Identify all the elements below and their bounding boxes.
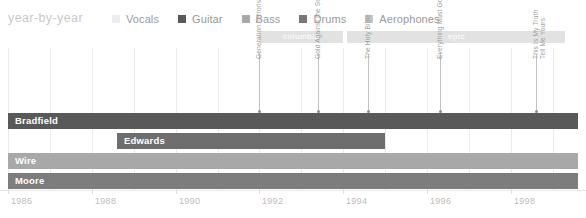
legend-label: Aerophones	[379, 13, 439, 25]
row-label-wire: Wire	[8, 153, 36, 169]
album-title-label: Gold Against the Soul	[314, 0, 321, 59]
axis-label: 1992	[262, 196, 283, 206]
timeline-bar-wire[interactable]	[8, 153, 578, 169]
axis-tick	[259, 190, 260, 194]
row-label-bradfield: Bradfield	[8, 113, 58, 129]
row-label-edwards: Edwards	[117, 133, 165, 149]
legend-label: Vocals	[126, 13, 159, 25]
timeline-bar-moore[interactable]	[8, 173, 578, 189]
legend-item-drums[interactable]: Drums	[299, 13, 346, 25]
album-title-label: This Is My Truth	[532, 0, 539, 59]
axis-label: 1988	[95, 196, 116, 206]
era-label-columbia: columbia	[259, 31, 343, 43]
gridline	[427, 133, 428, 149]
album-marker-stem	[318, 54, 319, 112]
gridline	[8, 133, 9, 149]
row-label-moore: Moore	[8, 173, 45, 189]
album-title-label: Everything Must Go	[436, 0, 443, 59]
legend-swatch-icon	[178, 15, 186, 23]
legend-item-guitar[interactable]: Guitar	[178, 13, 223, 25]
year-by-year-chart: year-by-year VocalsGuitarBassDrumsAeroph…	[0, 0, 586, 218]
legend-item-aerophones[interactable]: Aerophones	[365, 13, 439, 25]
x-axis: 1986198819901992199419961998	[0, 190, 586, 218]
timeline-row: Bradfield	[0, 113, 586, 129]
axis-tick	[8, 190, 9, 194]
axis-label: 1994	[346, 196, 367, 206]
axis-label: 1998	[514, 196, 535, 206]
label-era-band: columbiaepic	[0, 31, 586, 43]
album-title-label: Tell Me Yours	[539, 0, 546, 59]
member-rows: BradfieldEdwardsWireMoore	[0, 112, 586, 190]
axis-label: 1986	[11, 196, 32, 206]
gridline	[511, 133, 512, 149]
gridline	[92, 133, 93, 149]
timeline-row: Edwards	[0, 133, 586, 149]
album-marker-stem	[440, 54, 441, 112]
page-title: year-by-year	[8, 11, 83, 25]
album-title-label: Generation Terrorists	[255, 0, 262, 59]
legend-label: Guitar	[192, 13, 223, 25]
axis-tick	[176, 190, 177, 194]
axis-tick	[92, 190, 93, 194]
album-marker-stem	[368, 54, 369, 112]
axis-tick	[343, 190, 344, 194]
timeline-row: Wire	[0, 153, 586, 169]
legend-item-vocals[interactable]: Vocals	[112, 13, 159, 25]
legend-swatch-icon	[242, 15, 250, 23]
album-marker-stem	[259, 54, 260, 112]
album-title-label: The Holy Bible	[364, 0, 371, 59]
axis-tick	[427, 190, 428, 194]
legend-swatch-icon	[112, 15, 120, 23]
chart-header: year-by-year VocalsGuitarBassDrumsAeroph…	[0, 0, 586, 30]
axis-label: 1996	[430, 196, 451, 206]
legend: VocalsGuitarBassDrumsAerophones	[112, 12, 459, 26]
album-marker-stem	[536, 54, 537, 112]
axis-tick	[511, 190, 512, 194]
legend-swatch-icon	[299, 15, 307, 23]
timeline-row: Moore	[0, 173, 586, 189]
axis-rule	[0, 190, 586, 191]
timeline-bar-bradfield[interactable]	[8, 113, 578, 129]
axis-label: 1990	[179, 196, 200, 206]
